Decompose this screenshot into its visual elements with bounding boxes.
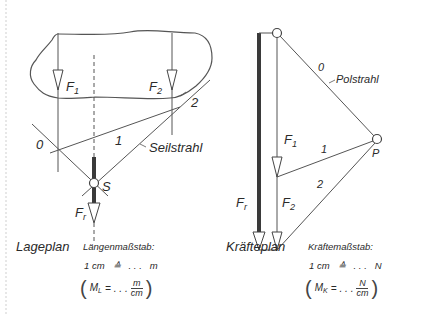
- kraefteplan-title: Kräfteplan: [226, 240, 285, 253]
- f1-arrow-icon: [272, 157, 282, 177]
- lageplan-fr-label: Fr: [75, 206, 86, 222]
- kraefteplan-scale-line: 1 cm ≙ . . . N: [309, 261, 382, 271]
- lageplan-ray1-label: 1: [115, 134, 122, 147]
- lageplan-scale-line: 1 cm ≙ . . . m: [84, 261, 158, 271]
- f2-arrow-icon: [167, 70, 177, 90]
- polstrahl-0: [280, 36, 374, 136]
- kraefteplan-f2-label: F2: [282, 196, 295, 212]
- kraefteplan-ray1-label: 1: [321, 144, 327, 155]
- polstrahl-leader: [329, 80, 335, 83]
- kraefteplan-ray2-label: 2: [317, 179, 323, 190]
- lageplan-ray2-label: 2: [191, 96, 198, 109]
- lageplan-f1-label: F1: [66, 80, 79, 96]
- fr-arrow-icon: [88, 203, 100, 223]
- kraefteplan-f1-label: F1: [284, 133, 297, 149]
- kraefteplan-scale-formula: ( MK = . . . Ncm ): [305, 277, 378, 300]
- lageplan-f2-label: F2: [149, 80, 162, 96]
- seilstrahl-leader: [140, 144, 146, 147]
- kraefteplan-ray0-label: 0: [318, 62, 324, 73]
- kraefteplan-fr-label: Fr: [236, 196, 247, 212]
- laengenmassstab-heading: Längenmaßstab:: [83, 242, 154, 252]
- centroid-s-point: [90, 179, 99, 188]
- f1-arrow-icon: [53, 70, 63, 90]
- polstrahl-label: Polstrahl: [336, 74, 379, 85]
- s-label: S: [102, 180, 111, 193]
- lageplan-scale-formula: ( ML = . . . mcm ): [80, 277, 152, 300]
- seilstrahl-label: Seilstrahl: [149, 141, 202, 154]
- lageplan-ray0-label: 0: [36, 138, 43, 151]
- pole-point-p: [373, 135, 382, 144]
- start-point: [273, 29, 282, 38]
- kraeftemassstab-heading: Kräftemaßstab:: [308, 242, 373, 252]
- lageplan-title: Lageplan: [16, 240, 70, 253]
- p-label: P: [372, 148, 379, 159]
